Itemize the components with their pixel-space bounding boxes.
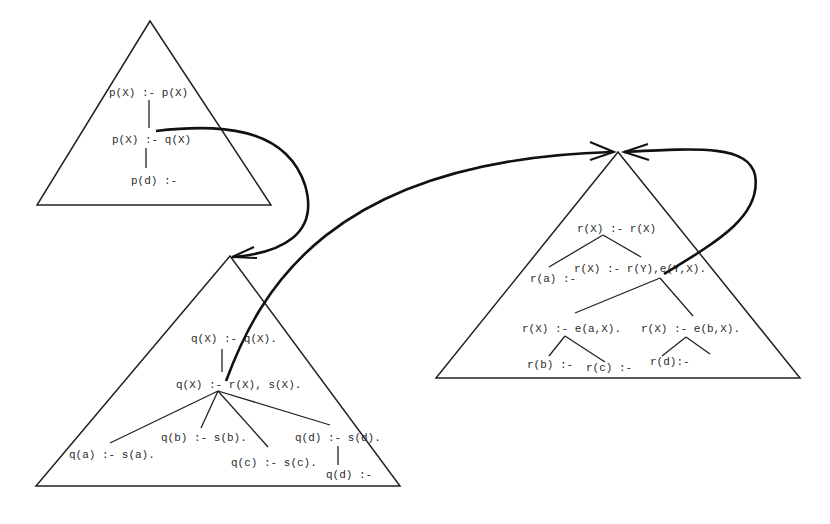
node-q1: q(X) :- q(X). [191,333,277,345]
arc-r-recursive [624,150,756,274]
node-p3: p(d) :- [131,175,177,187]
node-q5: q(c) :- s(c). [231,457,317,469]
node-q7: q(d) :- [326,469,372,481]
node-q6: q(d) :- s(d). [295,432,381,444]
q-tree: q(X) :- q(X). q(X) :- r(X), s(X). q(b) :… [36,256,400,486]
r-tree: r(X) :- r(X) r(X) :- r(Y),e(Y,X). r(a) :… [436,152,800,378]
node-r8: r(d):- [650,356,690,368]
edge-r5-r8b [686,337,710,354]
arrowhead-r-root-left [590,142,614,160]
p-tree: p(X) :- p(X) p(X) :- q(X) p(d) :- [37,21,271,205]
node-q4: q(b) :- s(b). [161,432,247,444]
edge-q2-q6 [218,391,330,425]
edge-q2-q4 [201,391,218,428]
node-r5: r(X) :- e(b,X). [641,323,740,335]
node-r1: r(X) :- r(X) [577,223,656,235]
node-r2: r(a) :- [530,273,576,285]
arc-q-to-r [226,152,612,381]
edge-r1-r3 [603,235,641,257]
edge-r4-r6 [549,336,565,356]
edge-r3-r4 [575,278,660,313]
node-r3: r(X) :- r(Y),e(Y,X). [574,263,706,275]
node-p2: p(X) :- q(X) [112,134,191,146]
diagram-canvas: p(X) :- p(X) p(X) :- q(X) p(d) :- q(X) :… [0,0,830,524]
node-r7: r(c) :- [586,362,632,374]
arc-p-to-q [156,128,308,257]
edge-r3-r5 [660,278,693,316]
node-r6: r(b) :- [527,359,573,371]
edge-r5-r8 [662,337,686,356]
node-r4: r(X) :- e(a,X). [522,323,621,335]
node-q2: q(X) :- r(X), s(X). [176,379,301,391]
node-q3: q(a) :- s(a). [69,449,155,461]
node-p1: p(X) :- p(X) [109,87,188,99]
